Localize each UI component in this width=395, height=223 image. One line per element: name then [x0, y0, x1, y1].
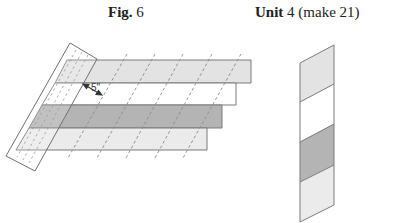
- diagram-canvas: 5": [0, 0, 395, 223]
- unit-block: [300, 45, 334, 222]
- measurement-label: 5": [91, 82, 101, 93]
